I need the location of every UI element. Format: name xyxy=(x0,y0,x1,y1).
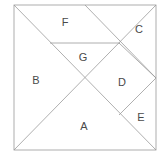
piece-label-g: G xyxy=(79,52,88,63)
tangram-figure: FCGBDAE xyxy=(0,0,165,162)
piece-label-f: F xyxy=(62,17,69,28)
piece-label-d: D xyxy=(118,77,126,88)
diamond-upper-right xyxy=(119,43,156,78)
piece-label-e: E xyxy=(137,112,144,123)
piece-label-a: A xyxy=(80,121,87,132)
piece-label-c: C xyxy=(135,24,143,35)
piece-label-b: B xyxy=(32,75,39,86)
